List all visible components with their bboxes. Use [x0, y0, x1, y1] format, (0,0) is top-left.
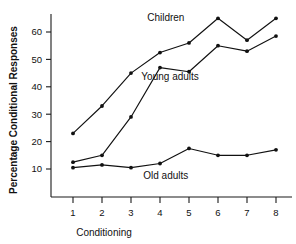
data-point-marker	[158, 66, 162, 70]
line-chart: Percentage Conditional Responses 1020304…	[0, 0, 296, 244]
data-point-marker	[129, 115, 133, 119]
data-point-marker	[274, 34, 278, 38]
chart-container: Percentage Conditional Responses 1020304…	[0, 0, 296, 244]
series-label-old-adults: Old adults	[143, 170, 188, 181]
data-point-marker	[158, 162, 162, 166]
y-axis-ticks: 102030405060	[31, 26, 51, 174]
series-line-young-adults	[73, 36, 276, 162]
y-tick-label: 60	[31, 26, 42, 37]
y-tick-label: 20	[31, 136, 42, 147]
data-point-marker	[129, 71, 133, 75]
data-point-marker	[187, 41, 191, 45]
data-point-marker	[158, 51, 162, 55]
data-point-marker	[71, 166, 75, 170]
x-tick-label: 5	[186, 207, 191, 218]
data-point-marker	[100, 163, 104, 167]
y-tick-label: 50	[31, 54, 42, 65]
y-tick-label: 10	[31, 163, 42, 174]
series-labels-group: ChildrenYoung adultsOld adults	[141, 12, 198, 181]
series-markers-group	[71, 16, 278, 169]
x-tick-label: 8	[273, 207, 278, 218]
y-tick-label: 30	[31, 109, 42, 120]
data-point-marker	[216, 44, 220, 48]
data-point-marker	[100, 153, 104, 157]
x-tick-label: 2	[99, 207, 104, 218]
data-point-marker	[245, 153, 249, 157]
data-point-marker	[187, 147, 191, 151]
x-tick-label: 6	[215, 207, 220, 218]
data-point-marker	[245, 38, 249, 42]
series-label-children: Children	[147, 12, 184, 23]
x-tick-label: 3	[128, 207, 133, 218]
y-axis-title: Percentage Conditional Responses	[8, 26, 19, 194]
x-tick-label: 7	[244, 207, 249, 218]
data-point-marker	[216, 16, 220, 20]
data-point-marker	[71, 160, 75, 164]
series-label-young-adults: Young adults	[141, 71, 198, 82]
data-point-marker	[274, 148, 278, 152]
data-point-marker	[129, 166, 133, 170]
data-point-marker	[216, 153, 220, 157]
data-point-marker	[71, 131, 75, 135]
y-tick-label: 40	[31, 81, 42, 92]
data-point-marker	[245, 49, 249, 53]
x-tick-label: 4	[157, 207, 162, 218]
x-tick-label: 1	[70, 207, 75, 218]
data-point-marker	[274, 16, 278, 20]
x-axis-ticks: 12345678	[70, 197, 278, 218]
x-axis-title: Conditioning	[76, 227, 132, 238]
data-point-marker	[100, 104, 104, 108]
